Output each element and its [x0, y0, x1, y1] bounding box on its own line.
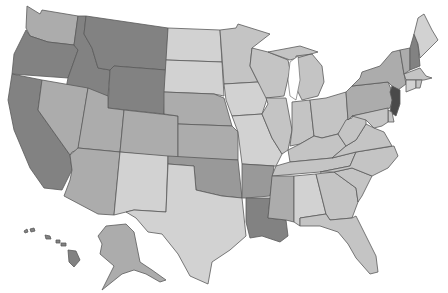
state-fl[interactable] — [300, 214, 378, 274]
lake-michigan — [288, 56, 300, 100]
state-sd[interactable] — [164, 60, 224, 96]
state-hi[interactable] — [24, 228, 80, 267]
state-mt[interactable] — [84, 16, 168, 70]
state-ct[interactable] — [406, 80, 416, 92]
state-nd[interactable] — [166, 28, 222, 62]
state-wy[interactable] — [108, 66, 166, 114]
state-ak[interactable] — [98, 224, 166, 290]
state-ar[interactable] — [242, 164, 274, 198]
state-ms[interactable] — [268, 176, 294, 222]
state-ri[interactable] — [416, 80, 422, 88]
state-az[interactable] — [64, 148, 120, 215]
hi-big-island — [68, 250, 80, 267]
state-ks[interactable] — [178, 124, 238, 160]
us-choropleth-map — [0, 0, 448, 293]
state-co[interactable] — [120, 110, 178, 158]
state-nm[interactable] — [114, 152, 168, 215]
